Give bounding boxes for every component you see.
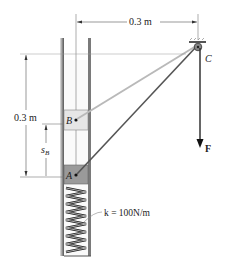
spring-pulley-diagram: B A C F 0.3 m [0,0,226,275]
dimension-top: 0.3 m [77,14,198,40]
dimension-left: 0.3 m [14,54,186,177]
tube-left-wall [60,38,64,256]
dimension-sB-label: sB [41,144,50,157]
label-F: F [205,143,211,154]
arrow-left-icon [77,21,82,24]
label-C: C [205,53,212,64]
collar-B: B [64,110,88,130]
label-A: A [65,170,73,181]
dimension-top-label: 0.3 m [129,16,152,27]
arrow-right-icon [192,21,197,24]
spring-constant-label: k = 100N/m [104,208,151,218]
spring-constant: k = 100N/m [84,208,151,222]
pulley-mount [189,41,206,43]
dimension-left-label: 0.3 m [14,112,37,123]
arrow-down-icon [197,139,204,148]
arrow-up-icon [25,55,28,60]
arrow-down-icon [25,171,28,176]
label-B: B [66,115,72,126]
arrow-up-icon [45,125,48,130]
collar-A: A [64,165,88,184]
tube-right-wall [88,38,91,256]
cord-B-to-C [77,46,196,119]
cord-A-to-C [77,47,196,174]
